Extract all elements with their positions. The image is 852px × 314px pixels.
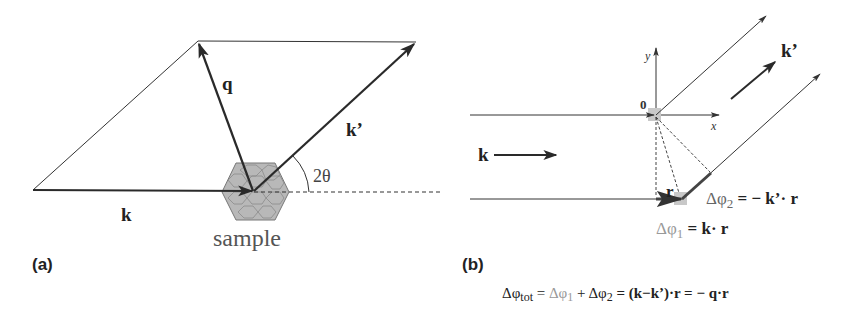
eq-dphi2: Δφ2 = − k’· r xyxy=(706,189,798,211)
label-k-prime: k’ xyxy=(346,119,363,140)
label-k-b: k xyxy=(478,144,489,165)
axis-x-label: x xyxy=(710,119,717,133)
vector-k xyxy=(33,190,252,191)
origin-label: 0 xyxy=(640,97,647,112)
panel-a: q k’ 2θ k sample (a) xyxy=(32,41,440,274)
label-r: r xyxy=(666,182,674,201)
vector-q xyxy=(199,44,253,191)
label-q: q xyxy=(222,73,233,94)
sample-label: sample xyxy=(213,225,281,251)
outline-left xyxy=(33,41,198,190)
panel-b: y x 0 k’ k r Δφ2 = − k’· r Δφ1 = k· r (b… xyxy=(462,16,820,304)
figure: q k’ 2θ k sample (a) xyxy=(0,0,852,314)
outline-top xyxy=(198,41,416,42)
panel-a-label: (a) xyxy=(32,255,53,274)
projection-lines xyxy=(656,117,710,197)
outgoing-ray-upper xyxy=(656,16,766,115)
k-prime-direction-arrow xyxy=(731,62,775,99)
eq-total: Δφtot = Δφ1 + Δφ2 = (k−k’)·r = − q·r xyxy=(502,285,729,304)
panel-b-label: (b) xyxy=(462,255,484,274)
angle-arc xyxy=(293,156,309,192)
eq-dphi1: Δφ1 = k· r xyxy=(656,219,729,241)
label-k-prime-b: k’ xyxy=(781,40,798,61)
axis-y-label: y xyxy=(644,49,651,63)
label-angle: 2θ xyxy=(313,166,331,186)
label-k: k xyxy=(121,204,132,225)
vector-k-prime xyxy=(254,44,414,191)
